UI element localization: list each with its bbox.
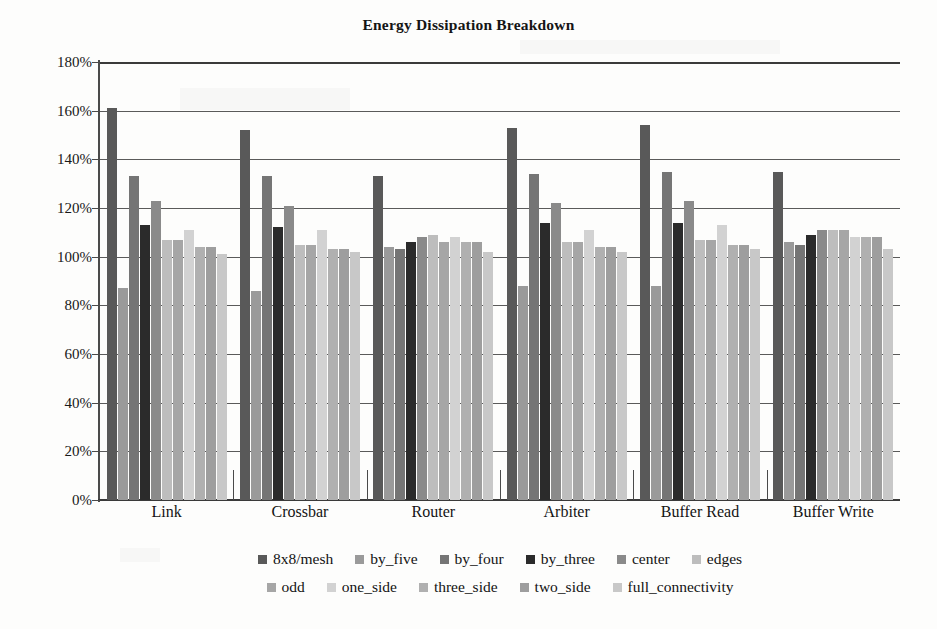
bar[interactable]	[662, 172, 672, 501]
bar[interactable]	[717, 225, 727, 500]
bar[interactable]	[573, 242, 583, 500]
bar[interactable]	[295, 245, 305, 501]
bar[interactable]	[773, 172, 783, 501]
bar[interactable]	[417, 237, 427, 500]
bar[interactable]	[728, 245, 738, 501]
legend-item-odd[interactable]: odd	[256, 578, 316, 596]
y-axis-tick-label: 100%	[6, 248, 92, 265]
legend-item-two-side[interactable]: two_side	[509, 578, 602, 596]
bar[interactable]	[328, 249, 338, 500]
bar[interactable]	[584, 230, 594, 500]
legend-swatch-icon	[692, 555, 701, 564]
bar[interactable]	[640, 125, 650, 500]
bar[interactable]	[651, 286, 661, 500]
legend-label: full_connectivity	[628, 578, 734, 596]
bar[interactable]	[461, 242, 471, 500]
y-axis-tick	[92, 403, 100, 404]
x-axis-group-separator	[633, 470, 634, 500]
bar[interactable]	[317, 230, 327, 500]
bar[interactable]	[750, 249, 760, 500]
bar[interactable]	[518, 286, 528, 500]
legend-item-edges[interactable]: edges	[681, 550, 753, 568]
bar[interactable]	[206, 247, 216, 500]
bar[interactable]	[872, 237, 882, 500]
bar[interactable]	[395, 249, 405, 500]
legend-item-by-five[interactable]: by_five	[344, 550, 428, 568]
bar[interactable]	[839, 230, 849, 500]
bar[interactable]	[118, 288, 128, 500]
legend-label: two_side	[535, 578, 591, 596]
bar[interactable]	[384, 247, 394, 500]
bar[interactable]	[173, 240, 183, 500]
bar[interactable]	[795, 245, 805, 501]
bar[interactable]	[817, 230, 827, 500]
legend-item-by-three[interactable]: by_three	[515, 550, 606, 568]
legend-item-one-side[interactable]: one_side	[316, 578, 408, 596]
bar[interactable]	[262, 176, 272, 500]
bar[interactable]	[606, 247, 616, 500]
bar[interactable]	[562, 242, 572, 500]
bar[interactable]	[507, 128, 517, 500]
y-axis-tick	[92, 354, 100, 355]
bar[interactable]	[850, 237, 860, 500]
bar[interactable]	[217, 254, 227, 500]
legend-label: by_four	[455, 550, 504, 568]
y-axis-tick	[92, 208, 100, 209]
legend-label: odd	[282, 578, 305, 596]
bar[interactable]	[706, 240, 716, 500]
legend-item-full-connectivity[interactable]: full_connectivity	[602, 578, 745, 596]
bar[interactable]	[806, 235, 816, 500]
bar[interactable]	[739, 245, 749, 501]
bar[interactable]	[828, 230, 838, 500]
bar[interactable]	[373, 176, 383, 500]
bar[interactable]	[151, 201, 161, 500]
bar[interactable]	[450, 237, 460, 500]
y-axis-tick-label: 80%	[6, 297, 92, 314]
legend-swatch-icon	[617, 555, 626, 564]
bar[interactable]	[251, 291, 261, 500]
bar-group-buffer-read	[633, 62, 766, 500]
bar[interactable]	[595, 247, 605, 500]
bar[interactable]	[529, 174, 539, 500]
legend-label: three_side	[434, 578, 498, 596]
bar[interactable]	[439, 242, 449, 500]
y-axis-tick-label: 160%	[6, 102, 92, 119]
bar[interactable]	[673, 223, 683, 500]
legend-swatch-icon	[520, 583, 529, 592]
bar[interactable]	[339, 249, 349, 500]
plot-area	[100, 62, 900, 500]
bar[interactable]	[861, 237, 871, 500]
bar[interactable]	[406, 242, 416, 500]
legend-item-three-side[interactable]: three_side	[408, 578, 509, 596]
bar[interactable]	[684, 201, 694, 500]
bar[interactable]	[472, 242, 482, 500]
legend-item-8x8-mesh[interactable]: 8x8/mesh	[247, 550, 344, 568]
bar[interactable]	[551, 203, 561, 500]
bar[interactable]	[306, 245, 316, 501]
bar[interactable]	[428, 235, 438, 500]
bar-group-crossbar	[233, 62, 366, 500]
legend-item-center[interactable]: center	[606, 550, 681, 568]
y-axis-tick-label: 60%	[6, 346, 92, 363]
bar[interactable]	[617, 252, 627, 500]
bar[interactable]	[284, 206, 294, 500]
bar[interactable]	[129, 176, 139, 500]
y-axis-tick-label: 140%	[6, 151, 92, 168]
bar[interactable]	[350, 252, 360, 500]
bar[interactable]	[273, 227, 283, 500]
bar[interactable]	[695, 240, 705, 500]
bar[interactable]	[140, 225, 150, 500]
legend-swatch-icon	[613, 583, 622, 592]
bar[interactable]	[107, 108, 117, 500]
bar[interactable]	[184, 230, 194, 500]
x-axis-category-label: Crossbar	[233, 503, 366, 521]
legend-item-by-four[interactable]: by_four	[429, 550, 515, 568]
bar[interactable]	[883, 249, 893, 500]
bar[interactable]	[540, 223, 550, 500]
bar[interactable]	[784, 242, 794, 500]
bar[interactable]	[162, 240, 172, 500]
bar[interactable]	[483, 252, 493, 500]
y-axis-tick	[92, 257, 100, 258]
bar[interactable]	[195, 247, 205, 500]
bar[interactable]	[240, 130, 250, 500]
